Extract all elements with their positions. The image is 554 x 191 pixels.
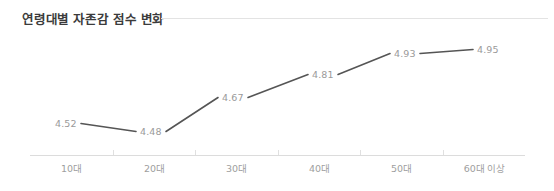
x-axis-tick bbox=[360, 150, 361, 155]
x-axis-tick bbox=[278, 150, 279, 155]
data-point-value-label: 4.95 bbox=[477, 44, 499, 55]
data-point-value-label: 4.67 bbox=[222, 92, 244, 103]
self-esteem-line-chart-card: 연령대별 자존감 점수 변화 4.524.484.674.814.934.95 … bbox=[0, 0, 554, 191]
data-point-value-label: 4.81 bbox=[312, 69, 334, 80]
x-axis-category-label: 30대 bbox=[195, 161, 278, 175]
line-segment bbox=[338, 54, 390, 75]
data-point-value-label: 4.93 bbox=[394, 48, 416, 59]
x-axis-category-label: 50대 bbox=[360, 161, 443, 175]
line-segment bbox=[248, 75, 308, 98]
data-point-value-label: 4.52 bbox=[55, 118, 77, 129]
line-segment bbox=[420, 50, 473, 54]
line-segment bbox=[81, 124, 136, 132]
x-axis-line bbox=[30, 155, 525, 156]
line-segment bbox=[166, 98, 218, 132]
x-axis-category-label: 60대 이상 bbox=[443, 161, 526, 175]
x-axis-tick bbox=[195, 150, 196, 155]
data-point-value-label: 4.48 bbox=[140, 126, 162, 137]
x-axis-tick bbox=[113, 150, 114, 155]
x-axis-category-label: 40대 bbox=[278, 161, 361, 175]
x-axis-tick bbox=[443, 150, 444, 155]
line-segments-group bbox=[81, 50, 473, 132]
x-axis-category-label: 20대 bbox=[113, 161, 196, 175]
x-axis-category-label: 10대 bbox=[30, 161, 113, 175]
